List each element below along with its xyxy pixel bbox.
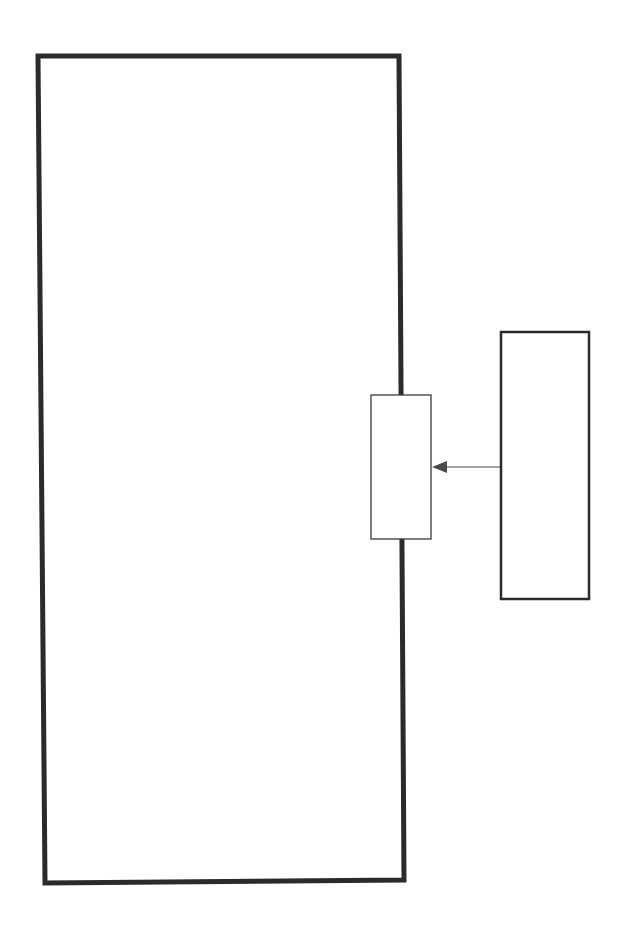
block-diagram	[0, 0, 633, 935]
arrowhead-left-icon	[432, 461, 447, 473]
small-port-block	[371, 395, 431, 539]
diagram-canvas	[0, 0, 633, 935]
large-container-block	[38, 56, 404, 883]
right-source-block	[501, 332, 589, 599]
